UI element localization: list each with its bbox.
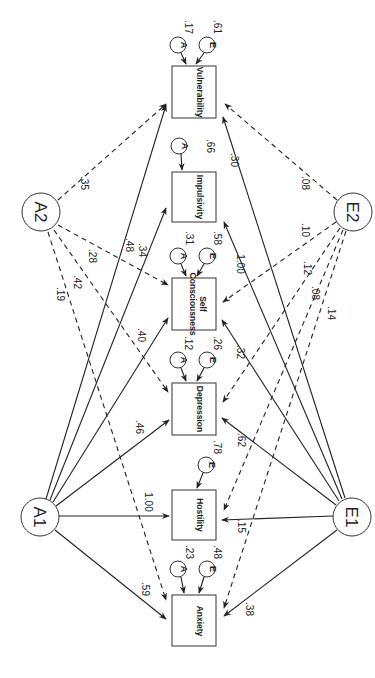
- specific-e-anxiety: E .48: [199, 545, 223, 593]
- svg-text:E2: E2: [343, 202, 362, 223]
- paths-a1: .48 .34 .40 .46 1.00 .59: [46, 105, 169, 619]
- svg-text:1.00: 1.00: [235, 254, 246, 274]
- svg-text:E: E: [208, 42, 218, 48]
- latent-e1: E1: [333, 498, 371, 536]
- svg-text:.38: .38: [244, 602, 255, 616]
- svg-text:E1: E1: [342, 507, 361, 528]
- svg-text:.08: .08: [300, 176, 311, 190]
- svg-text:.30: .30: [229, 153, 240, 167]
- svg-text:.26: .26: [212, 336, 223, 350]
- specific-e-self-consciousness: E .58: [197, 231, 223, 276]
- box-impulsivity: Impulsivity: [172, 172, 216, 222]
- svg-text:.42: .42: [72, 275, 83, 289]
- svg-text:.12: .12: [183, 336, 194, 350]
- svg-text:.40: .40: [136, 328, 147, 342]
- svg-text:.46: .46: [134, 420, 145, 434]
- path-diagram: Vulnerability Impulsivity Self Conscious…: [0, 0, 375, 678]
- box-hostility: Hostility: [172, 490, 216, 540]
- specific-a-self-consciousness: A .31: [170, 231, 195, 276]
- svg-text:.28: .28: [87, 249, 98, 263]
- svg-text:.58: .58: [212, 231, 223, 245]
- box-depression: Depression: [172, 383, 216, 435]
- svg-text:.59: .59: [140, 582, 151, 596]
- svg-text:A: A: [180, 143, 190, 150]
- svg-text:.10: .10: [300, 223, 311, 237]
- svg-text:A: A: [179, 42, 189, 49]
- svg-text:Anxiety: Anxiety: [195, 606, 205, 637]
- svg-text:E: E: [208, 566, 218, 572]
- svg-text:.62: .62: [236, 433, 247, 447]
- svg-text:Vulnerability: Vulnerability: [195, 67, 205, 118]
- svg-text:.48: .48: [124, 238, 135, 252]
- box-self-consciousness: Self Consciousness: [172, 273, 216, 336]
- latent-e2: E2: [334, 193, 372, 231]
- latent-a1: A1: [21, 498, 59, 536]
- svg-text:.15: .15: [236, 519, 247, 533]
- svg-text:E: E: [208, 357, 218, 363]
- svg-text:.08: .08: [310, 286, 321, 300]
- svg-text:.19: .19: [55, 287, 66, 301]
- box-vulnerability: Vulnerability: [172, 66, 216, 118]
- svg-text:Consciousness: Consciousness: [188, 273, 198, 336]
- svg-text:A: A: [179, 253, 189, 260]
- specific-e-vulnerability: E .61: [196, 20, 223, 64]
- specific-e-depression: E .26: [197, 336, 223, 381]
- specific-a-impulsivity: A .66: [171, 138, 216, 170]
- svg-text:E: E: [207, 462, 217, 468]
- svg-text:.48: .48: [212, 545, 223, 559]
- svg-text:A1: A1: [30, 507, 49, 528]
- svg-text:.78: .78: [212, 440, 223, 454]
- box-anxiety: Anxiety: [172, 595, 216, 646]
- svg-text:Self: Self: [198, 296, 208, 312]
- svg-text:Depression: Depression: [195, 386, 205, 432]
- svg-text:Hostility: Hostility: [195, 498, 205, 532]
- svg-text:.34: .34: [137, 243, 148, 257]
- paths-a2: .35 .28 .42 .19: [48, 104, 168, 600]
- svg-text:A: A: [179, 566, 189, 573]
- specific-a-vulnerability: A .17: [170, 20, 194, 64]
- svg-text:.14: .14: [326, 306, 337, 320]
- svg-text:.31: .31: [184, 231, 195, 245]
- svg-text:Impulsivity: Impulsivity: [195, 175, 205, 220]
- latent-a2: A2: [22, 193, 60, 231]
- svg-text:.23: .23: [184, 545, 195, 559]
- svg-text:.61: .61: [212, 20, 223, 34]
- specific-a-depression: A .12: [170, 336, 194, 381]
- svg-text:E: E: [208, 253, 218, 259]
- svg-text:A: A: [179, 357, 189, 364]
- svg-text:1.00: 1.00: [143, 492, 154, 512]
- svg-text:.12: .12: [302, 261, 313, 275]
- svg-text:.32: .32: [235, 345, 246, 359]
- svg-text:.66: .66: [205, 139, 216, 153]
- svg-text:A2: A2: [31, 202, 50, 223]
- svg-text:.35: .35: [79, 176, 90, 190]
- specific-a-anxiety: A .23: [170, 545, 195, 593]
- svg-text:.17: .17: [183, 20, 194, 34]
- paths-e1: .30 1.00 .32 .62 .15 .38: [222, 117, 345, 616]
- specific-e-hostility: E .78: [197, 440, 223, 488]
